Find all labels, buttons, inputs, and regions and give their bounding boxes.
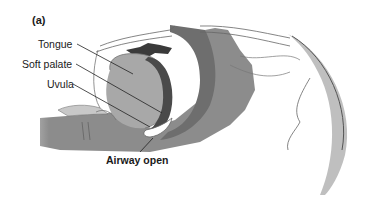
label-airway-open: Airway open [106, 154, 168, 166]
head-cross-section-illustration [0, 0, 367, 197]
label-tongue: Tongue [38, 38, 72, 50]
anatomy-diagram: (a) Tongue Soft palate Uvula Airway open [0, 0, 367, 197]
label-uvula: Uvula [47, 78, 74, 90]
label-soft-palate: Soft palate [22, 58, 72, 70]
panel-label: (a) [32, 14, 45, 26]
